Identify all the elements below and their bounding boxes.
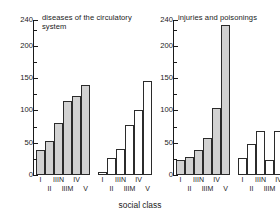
x-tick-label: IIIM	[199, 185, 216, 193]
y-axis-tick	[33, 127, 37, 128]
y-axis-tick-label: 50	[5, 139, 33, 147]
bar	[238, 158, 247, 175]
bar	[81, 85, 90, 175]
bar-group-left	[34, 20, 134, 175]
x-tick-labels-right: IIIIIINIIIMIVVIIIIIINIIIMIVV	[174, 176, 274, 196]
y-axis-tick-label: 50	[145, 139, 173, 147]
bar	[212, 108, 221, 175]
y-axis-tick-label: 100	[5, 106, 33, 114]
bar	[247, 144, 256, 175]
chart-panel-circulatory: diseases of the circulatory system 24020…	[0, 0, 140, 221]
y-axis-tick-label: 200	[145, 42, 173, 50]
x-tick-label: II	[103, 185, 120, 193]
x-tick-label: IIIM	[261, 185, 278, 193]
chart-figure: diseases of the circulatory system 24020…	[0, 0, 280, 221]
x-tick-label: II	[243, 185, 260, 193]
y-axis-tick	[173, 94, 177, 95]
x-tick-labels-left: IIIIIINIIIMIVVIIIIIINIIIMIVV	[34, 176, 134, 196]
x-tick-label: IV	[68, 176, 85, 184]
y-axis-tick-major	[173, 175, 178, 176]
y-axis-tick-label: 100	[145, 106, 173, 114]
bar	[265, 160, 274, 176]
x-tick-label: IV	[270, 176, 280, 184]
bar	[98, 172, 107, 175]
bar	[36, 150, 45, 175]
plot-area-right	[174, 20, 274, 175]
y-axis-tick	[173, 127, 177, 128]
x-tick-label: V	[77, 185, 94, 193]
x-tick-label: V	[279, 185, 280, 193]
y-axis-tick-label: 150	[5, 74, 33, 82]
bar	[45, 141, 54, 175]
x-tick-label: IV	[208, 176, 225, 184]
x-tick-label: II	[181, 185, 198, 193]
y-axis-tick-major	[33, 143, 38, 144]
y-axis-tick-label: 0	[145, 171, 173, 179]
bar	[256, 131, 265, 175]
y-axis-labels-left: 240200150100500	[0, 0, 33, 221]
y-axis-tick	[173, 159, 177, 160]
plot-area-left	[34, 20, 134, 175]
x-tick-label: I	[32, 176, 49, 184]
y-axis-tick	[33, 62, 37, 63]
y-axis-tick-label: 150	[145, 74, 173, 82]
y-axis-tick	[33, 30, 37, 31]
y-axis-tick-major	[173, 143, 178, 144]
y-axis-tick-major	[173, 20, 178, 21]
bar	[54, 123, 63, 175]
x-tick-label: IIIM	[121, 185, 138, 193]
y-axis-tick-major	[173, 46, 178, 47]
x-tick-label: I	[94, 176, 111, 184]
bar	[176, 160, 185, 175]
y-axis-tick	[33, 94, 37, 95]
bar	[274, 131, 280, 175]
bar	[63, 101, 72, 175]
y-axis-tick-major	[33, 78, 38, 79]
y-axis-tick-major	[173, 78, 178, 79]
y-axis-tick	[173, 30, 177, 31]
x-tick-label: IIIN	[112, 176, 129, 184]
x-tick-label: V	[217, 185, 234, 193]
x-tick-label: I	[234, 176, 251, 184]
bar	[194, 150, 203, 175]
x-tick-label: IIIN	[252, 176, 269, 184]
x-tick-label: II	[41, 185, 58, 193]
x-tick-label: IIIN	[190, 176, 207, 184]
bar	[185, 157, 194, 175]
bar	[116, 149, 125, 175]
x-tick-label: I	[172, 176, 189, 184]
bar	[125, 125, 134, 175]
y-axis-tick-major	[33, 110, 38, 111]
chart-panel-injuries: injuries and poisonings 240200150100500 …	[140, 0, 280, 221]
y-axis-tick-major	[33, 46, 38, 47]
x-tick-label: IIIN	[50, 176, 67, 184]
y-axis-tick	[173, 62, 177, 63]
y-axis-tick-major	[33, 175, 38, 176]
y-axis-tick-label: 240	[5, 16, 33, 24]
bar	[107, 158, 116, 175]
x-axis-title: social class	[0, 200, 280, 210]
y-axis-tick	[33, 159, 37, 160]
bar-group-right	[174, 20, 274, 175]
y-axis-tick-major	[173, 110, 178, 111]
y-axis-tick-label: 240	[145, 16, 173, 24]
bar	[203, 138, 212, 175]
y-axis-tick-label: 0	[5, 171, 33, 179]
y-axis-tick-label: 200	[5, 42, 33, 50]
y-axis-labels-right: 240200150100500	[140, 0, 173, 221]
bar	[221, 25, 230, 175]
bar	[72, 96, 81, 175]
y-axis-tick-major	[33, 20, 38, 21]
x-tick-label: IIIM	[59, 185, 76, 193]
